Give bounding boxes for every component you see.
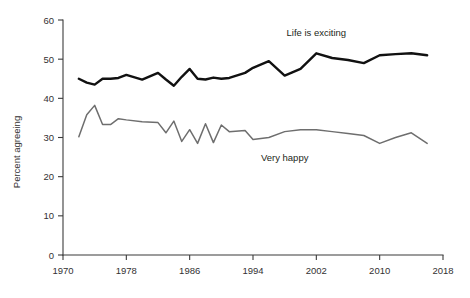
y-tick-label: 40 (43, 93, 54, 104)
chart-container: 0102030405060 Percent agreeing 197019781… (0, 0, 470, 298)
series-label-group: Life is excitingVery happy (261, 27, 346, 163)
series-label-very-happy: Very happy (261, 152, 309, 163)
y-axis-title: Percent agreeing (11, 116, 22, 188)
y-tick-group: 0102030405060 (43, 15, 63, 261)
y-tick-label: 60 (43, 15, 54, 26)
x-tick-label: 1986 (179, 265, 200, 276)
x-tick-label: 1978 (116, 265, 137, 276)
x-tick-label: 1970 (52, 265, 73, 276)
x-tick-label: 2002 (306, 265, 327, 276)
series-line-very-happy (79, 105, 427, 143)
y-axis: 0102030405060 Percent agreeing (11, 15, 63, 261)
x-axis: 1970197819861994200220102018 (52, 255, 453, 276)
y-tick-label: 0 (49, 250, 54, 261)
x-tick-label: 2018 (432, 265, 453, 276)
series-label-life-is-exciting: Life is exciting (286, 27, 346, 38)
y-tick-label: 30 (43, 132, 54, 143)
series-line-life-is-exciting (79, 53, 427, 86)
line-chart: 0102030405060 Percent agreeing 197019781… (0, 0, 470, 298)
x-tick-label: 2010 (369, 265, 390, 276)
y-tick-label: 20 (43, 171, 54, 182)
y-tick-label: 10 (43, 210, 54, 221)
y-tick-label: 50 (43, 54, 54, 65)
x-tick-label: 1994 (242, 265, 263, 276)
x-tick-group: 1970197819861994200220102018 (52, 255, 453, 276)
series-group (79, 53, 427, 143)
